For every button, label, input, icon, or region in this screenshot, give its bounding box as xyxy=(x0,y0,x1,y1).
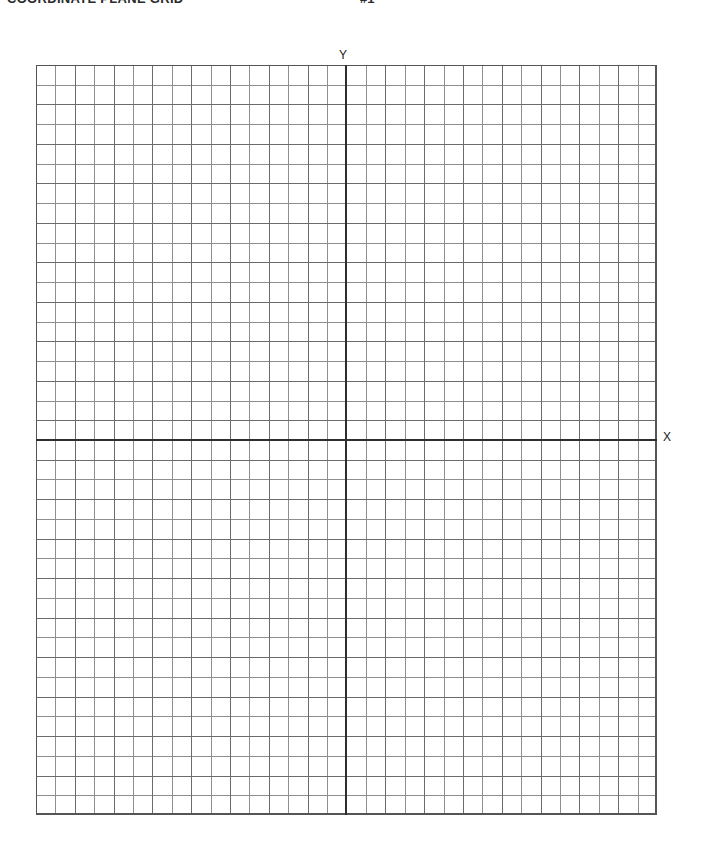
x-axis-label: X xyxy=(663,431,671,443)
y-axis-label: Y xyxy=(339,49,347,61)
y-axis-line xyxy=(345,65,347,815)
coordinate-plane xyxy=(36,65,657,815)
page-header: COORDINATE PLANE GRID #1 xyxy=(0,0,702,7)
page-title: COORDINATE PLANE GRID xyxy=(7,0,184,6)
page-number-mark: #1 xyxy=(360,0,374,6)
